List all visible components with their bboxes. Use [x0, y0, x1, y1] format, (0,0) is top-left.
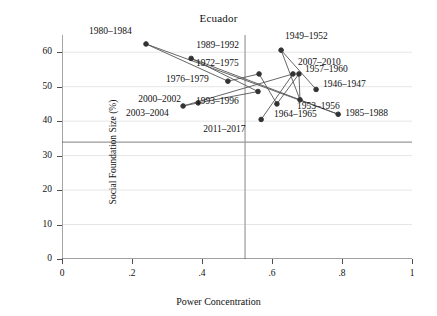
y-axis-tick-mark — [57, 87, 62, 88]
y-axis-title: Social Foundation Size (%) — [108, 37, 118, 267]
data-point-marker[interactable] — [189, 56, 194, 61]
x-axis-tick-label: 1 — [399, 268, 425, 278]
data-point-label: 1976–1979 — [166, 75, 209, 85]
y-axis-tick-label: 40 — [26, 115, 52, 125]
x-axis-tick-mark — [132, 259, 133, 264]
data-point-label: 2007–2010 — [298, 58, 341, 68]
data-point-marker[interactable] — [297, 72, 302, 77]
data-point-label: 1993–1996 — [196, 97, 239, 107]
data-point-label: 2003–2004 — [126, 109, 169, 119]
y-axis-tick-label: 30 — [26, 150, 52, 160]
data-point-marker[interactable] — [279, 48, 284, 53]
data-point-marker[interactable] — [257, 72, 262, 77]
y-axis-tick-label: 10 — [26, 219, 52, 229]
data-point-label: 1946–1947 — [323, 80, 366, 90]
data-point-label: 2011–2017 — [203, 125, 245, 135]
x-axis-tick-label: 0 — [49, 268, 75, 278]
data-point-label: 1964–1965 — [274, 110, 317, 120]
x-axis-tick-mark — [342, 259, 343, 264]
data-point-marker[interactable] — [314, 87, 319, 92]
x-axis-tick-mark — [202, 259, 203, 264]
y-axis-tick-mark — [57, 225, 62, 226]
y-axis-tick-mark — [57, 156, 62, 157]
y-axis-tick-label: 0 — [26, 253, 52, 263]
y-axis-tick-mark — [57, 52, 62, 53]
data-point-label: 2000–2002 — [138, 95, 181, 105]
data-point-marker[interactable] — [226, 79, 231, 84]
data-point-marker[interactable] — [181, 104, 186, 109]
chart-figure: Ecuador 1946–19471949–19521953–19561957–… — [0, 0, 437, 316]
x-axis-tick-mark — [62, 259, 63, 264]
data-point-marker[interactable] — [275, 102, 280, 107]
data-point-label: 1985–1988 — [345, 109, 388, 119]
x-axis-tick-mark — [412, 259, 413, 264]
data-point-label: 1949–1952 — [285, 32, 328, 42]
x-axis-tick-label: .6 — [259, 268, 285, 278]
data-point-marker[interactable] — [259, 117, 264, 122]
y-axis-tick-label: 50 — [26, 81, 52, 91]
x-axis-tick-label: .8 — [329, 268, 355, 278]
page-title: Ecuador — [0, 12, 437, 24]
data-point-marker[interactable] — [336, 112, 341, 117]
x-axis-title: Power Concentration — [0, 296, 437, 307]
data-point-label: 1989–1992 — [196, 41, 239, 51]
data-point-marker[interactable] — [291, 72, 296, 77]
y-axis-tick-label: 20 — [26, 184, 52, 194]
data-point-label: 1972–1975 — [196, 59, 239, 69]
x-axis-tick-mark — [272, 259, 273, 264]
y-axis-tick-label: 60 — [26, 46, 52, 56]
y-axis-tick-mark — [57, 190, 62, 191]
data-point-label: 1980–1984 — [89, 27, 132, 37]
data-point-marker[interactable] — [256, 89, 261, 94]
x-axis-tick-label: .4 — [189, 268, 215, 278]
data-point-marker[interactable] — [144, 42, 149, 47]
x-axis-tick-label: .2 — [119, 268, 145, 278]
y-axis-tick-mark — [57, 121, 62, 122]
plot-area: 1946–19471949–19521953–19561957–19601964… — [62, 35, 412, 259]
